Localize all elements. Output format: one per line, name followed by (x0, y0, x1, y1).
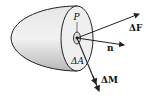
normal-label: n (107, 43, 114, 53)
area-label: ΔA (70, 56, 84, 66)
point-label: P (73, 12, 81, 22)
moment-vector-second-head (93, 76, 96, 84)
section-diagram: P ΔF n ΔA ΔM (0, 0, 146, 99)
force-label: ΔF (129, 23, 143, 33)
moment-label: ΔM (101, 75, 118, 85)
